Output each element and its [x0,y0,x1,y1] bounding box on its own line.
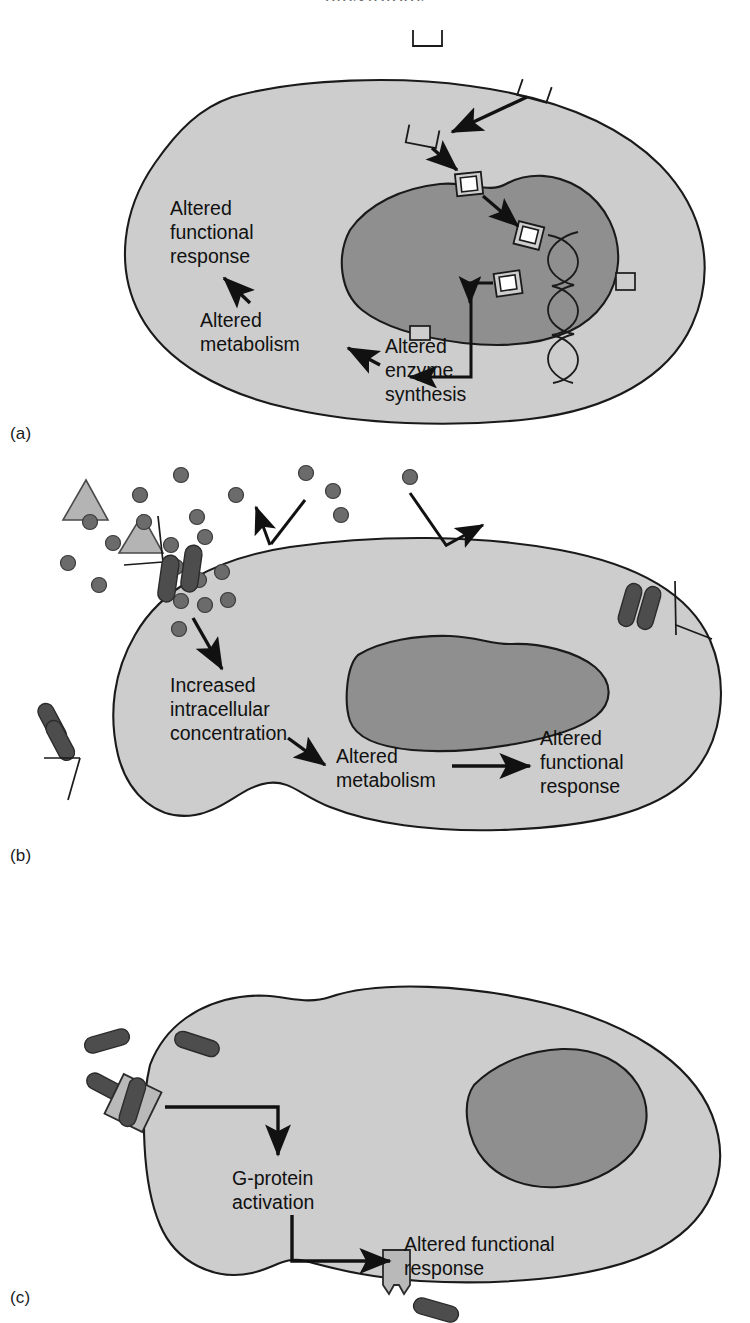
label-gprotein-activation-line2: activation [232,1191,314,1213]
panel-c-diagram: G-protein activation Altered functional … [0,885,750,1323]
label-altered-functional-response-line1: Altered [170,197,232,219]
nuclear-receptor-right-icon [616,273,635,290]
label-altered-functional-response-line2: functional [170,221,253,243]
label-altered-metabolism-line1: Altered [336,745,398,767]
ligand-free-top-icon [413,30,442,46]
label-altered-enzyme-synthesis-line3: synthesis [385,383,467,405]
label-altered-enzyme-synthesis-line1: Altered [385,335,447,357]
panel-a: Altered functional response Altered meta… [0,0,750,455]
panel-a-diagram: Altered functional response Altered meta… [0,0,750,455]
receptor-stem-bottom-left-icon [44,758,80,800]
membrane-channel-bottom-left-icon [35,701,77,763]
receptor-complex-nuclear-membrane-icon [455,172,483,197]
label-altered-metabolism-line1: Altered [200,309,262,331]
label-altered-functional-response-line3: response [540,775,620,797]
label-altered-functional-response-line1: Altered [540,727,602,749]
rod-ligand-4-icon [412,1296,461,1323]
efflux-arrow-group-left [256,500,305,545]
panel-caption-c: (c) [10,1288,30,1308]
label-altered-functional-response-line1: Altered functional [404,1233,555,1255]
label-altered-enzyme-synthesis-line2: enzyme [385,359,453,381]
label-altered-functional-response-line2: response [404,1257,484,1279]
figure-container: physiology [0,0,750,1323]
panel-caption-a: (a) [10,424,31,444]
label-increased-concentration-line3: concentration [170,722,287,744]
label-altered-metabolism-line2: metabolism [200,333,300,355]
label-increased-concentration-line1: Increased [170,674,256,696]
label-altered-functional-response-line3: response [170,245,250,267]
label-increased-concentration-line2: intracellular [170,698,270,720]
label-altered-functional-response-line2: functional [540,751,623,773]
rod-ligand-1-icon [83,1027,132,1055]
panel-caption-b: (b) [10,846,31,866]
label-gprotein-activation-line1: G-protein [232,1167,313,1189]
triangle-ligand-1-icon [63,480,108,520]
panel-b: Increased intracellular concentration Al… [0,455,750,885]
label-altered-metabolism-line2: metabolism [336,769,436,791]
panel-c: G-protein activation Altered functional … [0,885,750,1323]
receptor-complex-nucleus-dna-icon [494,270,523,296]
panel-b-diagram: Increased intracellular concentration Al… [0,455,750,885]
